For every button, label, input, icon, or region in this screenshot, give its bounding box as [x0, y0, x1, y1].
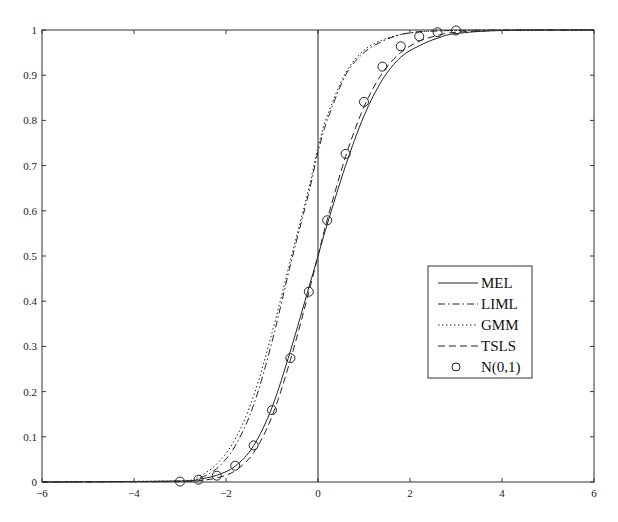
- x-tick-label: 4: [499, 487, 505, 499]
- legend: MELLIMLGMMTSLSN(0,1): [428, 266, 532, 378]
- y-tick-label: 0.3: [23, 340, 37, 352]
- chart-background: [0, 0, 618, 522]
- legend-label-tsls: TSLS: [481, 338, 516, 354]
- y-tick-label: 0.9: [23, 69, 37, 81]
- x-tick-label: −4: [128, 487, 140, 499]
- cdf-comparison-chart: −6−4−2024600.10.20.30.40.50.60.70.80.91 …: [0, 0, 618, 522]
- x-tick-label: 2: [407, 487, 413, 499]
- y-tick-label: 1: [32, 24, 38, 36]
- legend-label-n-0-1: N(0,1): [481, 359, 521, 376]
- x-tick-label: 0: [315, 487, 321, 499]
- y-tick-label: 0.4: [23, 295, 37, 307]
- legend-label-gmm: GMM: [481, 317, 519, 333]
- y-tick-label: 0.5: [23, 250, 37, 262]
- y-tick-label: 0.1: [23, 431, 37, 443]
- y-tick-label: 0.7: [23, 160, 37, 172]
- y-tick-label: 0.6: [23, 205, 37, 217]
- y-tick-label: 0: [32, 476, 38, 488]
- legend-label-liml: LIML: [481, 296, 518, 312]
- y-tick-label: 0.8: [23, 114, 37, 126]
- x-tick-label: 6: [591, 487, 597, 499]
- x-tick-label: −6: [36, 487, 48, 499]
- x-tick-label: −2: [220, 487, 232, 499]
- legend-label-mel: MEL: [481, 275, 513, 291]
- y-tick-label: 0.2: [23, 386, 37, 398]
